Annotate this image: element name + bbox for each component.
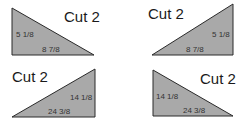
piece-4-long-side: 24 3/8 (183, 106, 206, 115)
piece-3: Cut 2 14 1/8 24 3/8 (12, 68, 95, 117)
piece-3-short-side: 14 1/8 (70, 93, 93, 102)
piece-1-short-side: 5 1/8 (16, 30, 34, 39)
piece-2: Cut 2 5 1/8 8 7/8 (148, 4, 233, 55)
piece-4-title: Cut 2 (200, 70, 236, 87)
piece-2-title: Cut 2 (148, 5, 184, 22)
piece-1-title: Cut 2 (64, 8, 100, 25)
piece-4: Cut 2 14 1/8 24 3/8 (153, 70, 236, 116)
piece-1-long-side: 8 7/8 (42, 45, 60, 54)
cutting-diagram: Cut 2 5 1/8 8 7/8 Cut 2 5 1/8 8 7/8 Cut … (0, 0, 236, 124)
piece-3-title: Cut 2 (12, 68, 48, 85)
piece-2-short-side: 5 1/8 (212, 30, 230, 39)
piece-1: Cut 2 5 1/8 8 7/8 (12, 8, 100, 55)
piece-2-long-side: 8 7/8 (186, 45, 204, 54)
piece-3-long-side: 24 3/8 (48, 107, 71, 116)
piece-4-short-side: 14 1/8 (156, 92, 179, 101)
triangles-svg: Cut 2 5 1/8 8 7/8 Cut 2 5 1/8 8 7/8 Cut … (0, 0, 236, 124)
